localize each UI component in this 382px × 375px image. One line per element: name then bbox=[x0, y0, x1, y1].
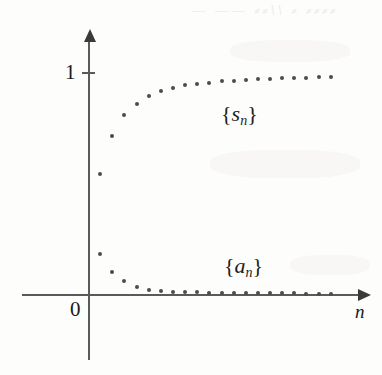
series-label-a-n: {an} bbox=[224, 255, 263, 280]
y-tick-label-one: 1 bbox=[65, 62, 76, 83]
data-point bbox=[98, 172, 102, 176]
data-point bbox=[147, 94, 151, 98]
sequence-partial-sum-figure: — —— ⸗⸗\\ ⸗ ⸗⸗⸗⸗ 1 0 n {sn} {an} bbox=[0, 0, 382, 375]
paper-smudge bbox=[290, 255, 370, 275]
data-point bbox=[183, 83, 187, 87]
data-point bbox=[171, 86, 175, 90]
data-point bbox=[159, 289, 163, 293]
data-point bbox=[147, 288, 151, 292]
data-point bbox=[280, 76, 284, 80]
series-label-s-n: {sn} bbox=[221, 103, 258, 128]
paper-smudge bbox=[230, 40, 350, 62]
bleed-through-text: — —— ⸗⸗\\ ⸗ ⸗⸗⸗⸗ bbox=[192, 2, 338, 19]
data-point bbox=[122, 113, 126, 117]
data-point bbox=[232, 291, 236, 295]
series-symbol-s: s bbox=[232, 101, 241, 126]
data-point bbox=[171, 290, 175, 294]
up-arrow-icon bbox=[84, 29, 96, 42]
brace-close: } bbox=[247, 101, 258, 126]
right-arrow-icon bbox=[358, 289, 371, 301]
y-axis-tick-one bbox=[82, 72, 95, 74]
data-point bbox=[135, 102, 139, 106]
data-point bbox=[244, 291, 248, 295]
data-point bbox=[159, 89, 163, 93]
data-point bbox=[220, 79, 224, 83]
brace-close: } bbox=[253, 253, 264, 278]
data-point bbox=[256, 291, 260, 295]
data-point bbox=[317, 292, 321, 296]
series-subscript-n: n bbox=[246, 265, 253, 280]
data-point bbox=[329, 75, 333, 79]
data-point bbox=[98, 252, 102, 256]
data-point bbox=[110, 134, 114, 138]
data-point bbox=[268, 77, 272, 81]
data-point bbox=[220, 291, 224, 295]
data-point bbox=[244, 78, 248, 82]
data-point bbox=[207, 81, 211, 85]
data-point bbox=[292, 76, 296, 80]
paper-smudge bbox=[210, 150, 360, 178]
data-point bbox=[256, 77, 260, 81]
data-point bbox=[304, 76, 308, 80]
brace-open: { bbox=[224, 253, 235, 278]
data-point bbox=[135, 285, 139, 289]
data-point bbox=[232, 79, 236, 83]
origin-label: 0 bbox=[70, 299, 81, 320]
x-axis bbox=[22, 294, 362, 296]
data-point bbox=[329, 292, 333, 296]
data-point bbox=[122, 279, 126, 283]
data-point bbox=[317, 75, 321, 79]
y-axis bbox=[88, 40, 90, 360]
brace-open: { bbox=[221, 101, 232, 126]
data-point bbox=[195, 82, 199, 86]
series-symbol-a: a bbox=[235, 253, 246, 278]
x-axis-label: n bbox=[355, 302, 365, 321]
data-point bbox=[110, 270, 114, 274]
